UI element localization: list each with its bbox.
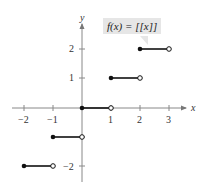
x-axis-label: x [190,102,196,113]
function-label: f(x) = [[x]] [103,18,161,34]
y-axis-label: y [79,12,85,23]
y-tick-label: 2 [69,43,74,54]
x-tick-label: −2 [18,114,29,125]
y-tick-label: 1 [69,72,74,83]
x-tick-label: 3 [166,114,171,125]
x-tick-label: 1 [108,114,113,125]
x-tick-label: 2 [137,114,142,125]
y-tick-label: −2 [63,161,74,172]
x-tick-label: −1 [47,114,58,125]
label-pointer [140,36,148,45]
